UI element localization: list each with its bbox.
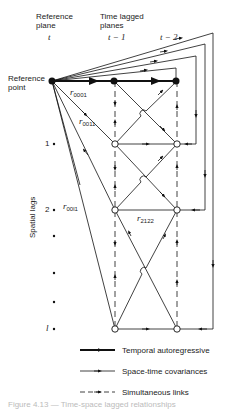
reference-point-label: Reference point [8, 74, 45, 92]
subscript: 0011 [83, 121, 96, 127]
reference-point-node [49, 78, 56, 85]
edge-label-r00l1: r00l1 [63, 202, 78, 214]
t-label: t [48, 33, 51, 42]
spatial-lag-1: 1 [45, 139, 49, 148]
label-line: Reference [36, 12, 73, 21]
subscript: 2122 [141, 218, 154, 224]
label-line: point [8, 83, 45, 92]
legend-simultaneous-links: Simultaneous links [122, 388, 189, 397]
label-line: planes [100, 21, 144, 30]
reference-plane-label: Reference plane [36, 12, 73, 30]
figure-caption: Figure 4.13 — Time-space lagged relation… [8, 400, 176, 409]
spatial-lags-axis-label: Spatial lags [28, 197, 37, 238]
loop-rl [52, 33, 213, 329]
t-minus-1-label: t − 1 [108, 33, 126, 42]
edge-label-r2122: r2122 [137, 214, 154, 226]
spatial-lag-2: 2 [45, 205, 49, 214]
subscript: 0001 [74, 92, 87, 98]
loop-r1 [52, 56, 196, 144]
label-line: Reference [8, 74, 45, 83]
legend-space-time-covariances: Space-time covariances [122, 367, 207, 376]
label-line: Time lagged [100, 12, 144, 21]
time-lagged-planes-label: Time lagged planes [100, 12, 144, 30]
edge-label-r0001: r0001 [70, 88, 87, 100]
loop-r2 [52, 44, 205, 210]
label-line: plane [36, 21, 73, 30]
edge-label-r0011: r0011 [79, 117, 95, 129]
subscript: 00l1 [67, 206, 78, 212]
t-minus-2-label: t − 2 [160, 33, 178, 42]
legend-temporal-autoregressive: Temporal autoregressive [122, 346, 210, 355]
spatial-lag-l: l [46, 324, 49, 333]
